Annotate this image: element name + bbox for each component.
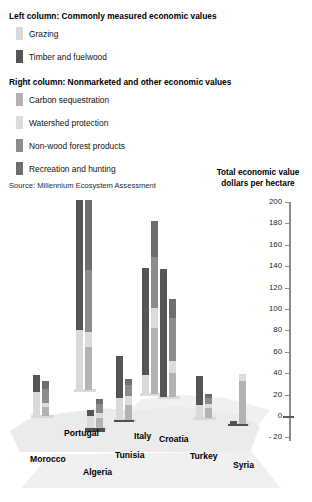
bar-syria-right bbox=[239, 374, 246, 424]
bar-segment bbox=[205, 408, 212, 418]
y-tick-160 bbox=[285, 245, 291, 246]
bar-segment bbox=[125, 396, 132, 405]
legend-label-timber-and-fuelwood: Timber and fuelwood bbox=[29, 52, 107, 62]
bar-turkey-right bbox=[205, 394, 212, 418]
legend-swatch-recreation-and-hunting bbox=[16, 162, 23, 175]
bar-segment bbox=[239, 381, 246, 424]
bar-segment bbox=[85, 270, 92, 332]
y-tick--20 bbox=[285, 437, 291, 438]
bar-segment bbox=[42, 381, 49, 390]
bar-segment bbox=[33, 392, 40, 416]
bar-segment bbox=[87, 416, 94, 428]
bar-segment bbox=[196, 405, 203, 418]
bar-italy-left bbox=[142, 268, 149, 394]
bar-portugal-right bbox=[85, 200, 92, 390]
category-label-italy: Italy bbox=[134, 431, 151, 441]
bar-segment bbox=[196, 376, 203, 405]
legend-item-carbon-sequestration: Carbon sequestration bbox=[0, 88, 312, 111]
category-label-croatia: Croatia bbox=[159, 434, 189, 444]
bar-segment bbox=[125, 405, 132, 420]
bar-negative-tunisia bbox=[114, 420, 134, 422]
bar-segment bbox=[116, 356, 123, 398]
legend-label-watershed-protection: Watershed protection bbox=[29, 118, 108, 128]
bar-segment bbox=[151, 308, 158, 327]
y-tick-60 bbox=[285, 352, 291, 353]
bar-segment bbox=[76, 330, 83, 390]
y-tick-label-140: 140 bbox=[248, 261, 282, 270]
legend-label-recreation-and-hunting: Recreation and hunting bbox=[29, 164, 116, 174]
category-label-portugal: Portugal bbox=[64, 428, 99, 438]
legend-swatch-watershed-protection bbox=[16, 116, 23, 129]
bar-segment bbox=[76, 200, 83, 331]
bar-algeria-left bbox=[87, 410, 94, 428]
y-tick-0 bbox=[283, 416, 294, 418]
axis-title-line-1: Total economic value bbox=[206, 168, 310, 179]
bar-segment bbox=[85, 332, 92, 347]
legend-heading-left: Left column: Commonly measured economic … bbox=[0, 0, 312, 22]
y-tick-label-100: 100 bbox=[248, 304, 282, 313]
bar-negative-syria bbox=[228, 424, 248, 426]
y-tick-label-20: 20 bbox=[248, 390, 282, 399]
bar-segment bbox=[42, 389, 49, 403]
y-tick-label-80: 80 bbox=[248, 325, 282, 334]
y-tick-180 bbox=[285, 223, 291, 224]
bar-segment bbox=[96, 418, 103, 428]
y-axis-line bbox=[289, 203, 291, 441]
bar-croatia-left bbox=[160, 269, 167, 397]
bar-segment bbox=[116, 398, 123, 420]
legend-swatch-non-wood-forest-products bbox=[16, 139, 23, 152]
category-label-algeria: Algeria bbox=[83, 467, 112, 477]
bar-segment bbox=[239, 374, 246, 381]
chart-legend: Left column: Commonly measured economic … bbox=[0, 0, 312, 190]
y-tick-80 bbox=[285, 330, 291, 331]
legend-label-carbon-sequestration: Carbon sequestration bbox=[29, 95, 109, 105]
y-tick-200 bbox=[285, 202, 291, 203]
legend-label-non-wood-forest-products: Non-wood forest products bbox=[29, 141, 125, 151]
bar-segment bbox=[169, 299, 176, 318]
legend-item-non-wood-forest-products: Non-wood forest products bbox=[0, 134, 312, 157]
bar-segment bbox=[142, 268, 149, 375]
legend-item-watershed-protection: Watershed protection bbox=[0, 111, 312, 134]
bar-segment bbox=[85, 347, 92, 390]
legend-item-timber-and-fuelwood: Timber and fuelwood bbox=[0, 45, 312, 68]
bar-segment bbox=[151, 328, 158, 394]
y-tick-label-160: 160 bbox=[248, 240, 282, 249]
y-tick-label-120: 120 bbox=[248, 283, 282, 292]
bar-segment bbox=[96, 404, 103, 413]
bar-segment bbox=[142, 375, 149, 394]
bar-morocco-left bbox=[33, 375, 40, 416]
y-tick-label-180: 180 bbox=[248, 218, 282, 227]
y-tick-120 bbox=[285, 288, 291, 289]
legend-heading-right: Right column: Nonmarketed and other econ… bbox=[0, 68, 312, 88]
bar-segment bbox=[160, 269, 167, 397]
bar-segment bbox=[125, 385, 132, 397]
bar-algeria-right bbox=[96, 399, 103, 428]
bar-croatia-right bbox=[169, 299, 176, 397]
bar-chart-plot: 200180160140120100806040200- 20 MoroccoP… bbox=[0, 200, 312, 502]
bar-segment bbox=[85, 200, 92, 271]
bar-segment bbox=[169, 361, 176, 374]
legend-label-grazing: Grazing bbox=[29, 29, 58, 39]
y-tick-140 bbox=[285, 266, 291, 267]
y-tick-20 bbox=[285, 395, 291, 396]
bar-tunisia-right bbox=[125, 379, 132, 420]
legend-swatch-grazing bbox=[16, 27, 23, 40]
y-tick-label-0: 0 bbox=[248, 411, 282, 420]
bar-tunisia-left bbox=[116, 356, 123, 420]
y-tick-40 bbox=[285, 373, 291, 374]
bar-segment bbox=[42, 407, 49, 416]
bar-morocco-right bbox=[42, 381, 49, 416]
bar-turkey-left bbox=[196, 376, 203, 418]
bar-segment bbox=[169, 373, 176, 397]
bar-italy-right bbox=[151, 221, 158, 394]
legend-swatch-timber-and-fuelwood bbox=[16, 50, 23, 63]
legend-item-grazing: Grazing bbox=[0, 22, 312, 45]
axis-title: Total economic value dollars per hectare bbox=[206, 168, 310, 189]
bar-segment bbox=[33, 375, 40, 392]
bar-portugal-left bbox=[76, 200, 83, 390]
bar-segment bbox=[169, 318, 176, 361]
y-tick-label-60: 60 bbox=[248, 347, 282, 356]
bar-segment bbox=[151, 221, 158, 257]
category-label-turkey: Turkey bbox=[190, 451, 218, 461]
y-tick-label--20: - 20 bbox=[248, 432, 282, 441]
